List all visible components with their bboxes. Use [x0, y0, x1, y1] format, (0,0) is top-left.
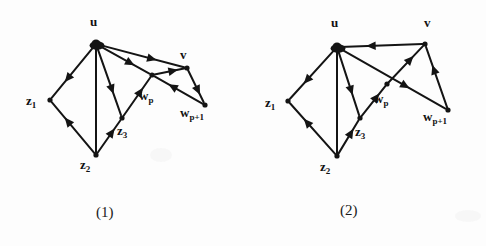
graph-node-wp: [384, 81, 389, 86]
node-label-main: w: [374, 91, 383, 106]
node-label-panel-2-wp: wp: [374, 92, 388, 108]
node-label-subscript: 3: [123, 130, 128, 140]
graph-node-v: [184, 65, 189, 70]
node-label-main: v: [180, 47, 187, 62]
graph-edge-z2-to-z1: [290, 103, 335, 154]
arrowhead-icon: [106, 129, 115, 139]
node-label-main: v: [424, 15, 431, 30]
node-label-panel-1-z1: z1: [26, 94, 36, 110]
graph-node-u-blob: [90, 41, 105, 49]
arrowhead-icon: [168, 67, 178, 75]
node-label-panel-2-v: v: [424, 16, 431, 29]
node-label-subscript: p+1: [432, 116, 447, 126]
node-label-panel-2-wp1: wp+1: [423, 110, 447, 126]
node-label-main: w: [139, 88, 148, 103]
node-label-panel-1-z3: z3: [117, 124, 127, 140]
panel-2: [285, 41, 450, 158]
node-label-subscript: p: [383, 98, 388, 108]
node-label-panel-1-v: v: [180, 48, 187, 61]
node-label-panel-2-z1: z1: [265, 96, 275, 112]
graph-node-v: [422, 41, 427, 46]
node-label-main: u: [90, 14, 97, 29]
node-label-panel-1-u: u: [90, 15, 97, 28]
node-label-subscript: 2: [326, 166, 331, 176]
graph-edge-wp-to-v: [389, 46, 423, 82]
arrowhead-icon: [106, 84, 114, 94]
figure-page: uz1z2z3wpvwp+1(1)uz1z2z3wpvwp+1(2): [0, 0, 486, 246]
node-label-subscript: 3: [361, 131, 366, 141]
panel-caption-panel-1: (1): [96, 205, 114, 220]
panel-caption-panel-2: (2): [340, 203, 358, 218]
node-label-main: w: [180, 105, 189, 120]
arrowhead-icon: [346, 85, 354, 95]
node-label-subscript: p: [148, 95, 153, 105]
arrowhead-icon: [366, 41, 376, 50]
node-label-panel-1-wp1: wp+1: [180, 106, 204, 122]
graph-node-z2: [93, 152, 98, 157]
graph-edge-u-to-z3: [338, 49, 359, 115]
node-label-subscript: 1: [32, 100, 37, 110]
graph-figure-canvas: [0, 0, 486, 246]
graph-edge-z2-to-z1: [52, 102, 94, 153]
graph-node-z1: [285, 98, 290, 103]
graph-node-z3: [119, 115, 124, 120]
node-label-panel-1-z2: z2: [80, 158, 90, 174]
graph-node-z2: [334, 153, 339, 158]
graph-edge-u-to-z1: [52, 46, 95, 98]
node-label-subscript: 1: [271, 102, 276, 112]
node-label-subscript: p+1: [189, 112, 204, 122]
node-label-subscript: 2: [86, 164, 91, 174]
graph-node-u-blob: [331, 44, 346, 52]
arrowhead-icon: [431, 65, 439, 75]
graph-edge-u-to-z1: [290, 49, 335, 99]
node-label-panel-2-z2: z2: [320, 160, 330, 176]
graph-node-z3: [357, 115, 362, 120]
graph-edge-u-to-v: [98, 45, 184, 68]
graph-edge-v-to-u: [340, 44, 423, 47]
node-label-main: u: [331, 15, 338, 30]
node-label-main: w: [423, 109, 432, 124]
node-label-panel-1-wp: wp: [139, 89, 153, 105]
graph-node-z1: [47, 97, 52, 102]
graph-node-wp: [149, 72, 154, 77]
node-label-panel-2-u: u: [331, 16, 338, 29]
node-label-panel-2-z3: z3: [355, 125, 365, 141]
